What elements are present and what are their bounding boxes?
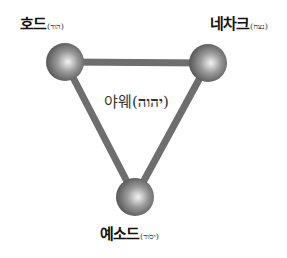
sephirot-triangle-diagram [0, 0, 287, 258]
edge-hod-netzach [65, 62, 208, 63]
hod-korean: 호드 [20, 15, 46, 33]
sphere-hod [46, 43, 84, 81]
netzach-korean: 네차크 [210, 15, 249, 33]
node-label-hod: 호드(הוד) [20, 16, 64, 32]
node-label-netzach: 네차크(נצח) [210, 16, 268, 32]
edge-netzach-yesod [135, 63, 208, 197]
center-hebrew: יהוה [138, 93, 163, 111]
center-label-yahweh: 야웨(יהוה) [104, 90, 169, 111]
yesod-korean: 예소드 [100, 225, 139, 243]
hod-hebrew: (הוד) [47, 22, 64, 31]
edge-hod-yesod [65, 62, 135, 197]
sphere-yesod [116, 178, 154, 216]
center-close-paren: ) [163, 93, 169, 111]
yesod-hebrew: (יסוד) [140, 232, 159, 241]
netzach-hebrew: (נצח) [250, 22, 268, 31]
sphere-netzach [189, 44, 227, 82]
center-korean: 야웨 [104, 93, 132, 111]
node-label-yesod: 예소드(יסוד) [100, 226, 159, 242]
